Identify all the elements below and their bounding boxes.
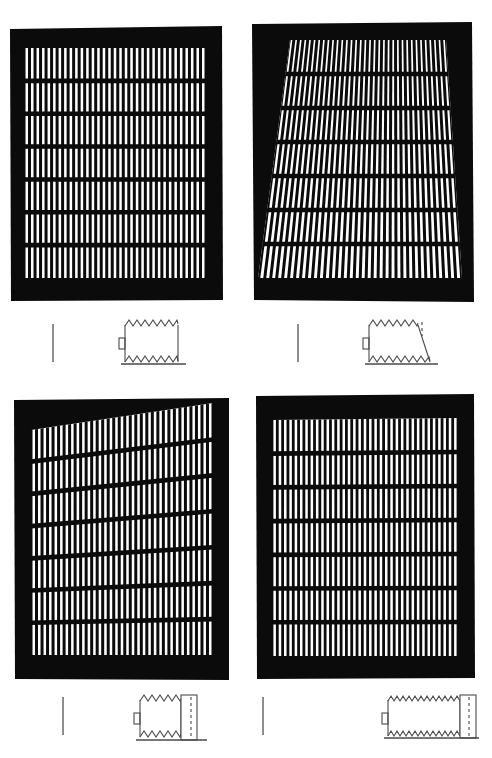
right-cap <box>181 695 197 740</box>
grating-panel-top-right <box>246 0 492 312</box>
left-tab <box>363 338 369 349</box>
top-sawtooth <box>125 320 178 326</box>
panel-d <box>246 379 492 758</box>
schematic-capped-block <box>131 693 213 745</box>
bottom-sawtooth <box>140 731 181 737</box>
panel-a-caption-row <box>0 312 246 372</box>
scale-bar <box>62 697 64 735</box>
bottom-sawtooth <box>125 356 178 362</box>
bottom-sawtooth <box>388 731 460 736</box>
panel-b <box>246 0 492 379</box>
schematic-straight-block <box>116 318 190 370</box>
scale-bar <box>52 324 54 362</box>
panel-c-caption-row <box>0 689 246 749</box>
top-sawtooth <box>140 695 181 701</box>
scale-bar <box>262 697 264 735</box>
grating-panel-top-left <box>0 0 246 312</box>
right-wall-slanted <box>418 325 430 362</box>
right-cap <box>460 695 476 738</box>
left-tab <box>382 713 388 724</box>
top-sawtooth <box>369 320 418 326</box>
figure-root: Rectangular black frame enclosing a regu… <box>0 0 492 758</box>
grating-panel-bottom-left <box>0 379 246 689</box>
schematic-wide-capped-block <box>379 694 483 744</box>
grating-panel-bottom-right <box>246 379 492 689</box>
panel-b-caption-row <box>246 312 492 372</box>
top-sawtooth <box>388 696 460 701</box>
scale-bar <box>297 324 299 362</box>
panel-a <box>0 0 246 379</box>
panel-d-caption-row <box>246 689 492 749</box>
bottom-sawtooth <box>369 356 430 362</box>
schematic-sheared-block <box>360 318 444 370</box>
panel-c <box>0 379 246 758</box>
left-tab <box>119 338 125 349</box>
left-tab <box>134 713 140 724</box>
